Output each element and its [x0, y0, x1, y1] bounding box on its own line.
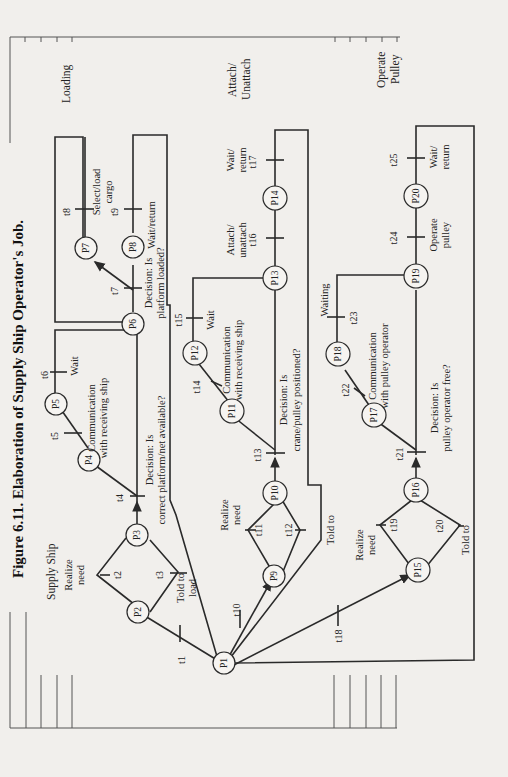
- label-t10: t10: [231, 604, 242, 617]
- section-bracket-lines: [10, 37, 400, 728]
- place-p20: P20: [404, 184, 428, 208]
- svg-text:P4: P4: [84, 455, 94, 465]
- descriptive-labels: Realize need Told to load Decision: Is c…: [63, 144, 471, 603]
- place-p2: P2: [127, 601, 149, 623]
- label-comm-receiving-2a: Communication: [221, 325, 232, 393]
- svg-text:P12: P12: [190, 345, 200, 360]
- label-wait-return-1: Wait/return: [146, 200, 157, 248]
- label-t25: t25: [388, 154, 399, 167]
- place-p18: P18: [326, 342, 350, 366]
- label-realize-need-3b: need: [366, 534, 377, 555]
- label-t6: t6: [39, 371, 50, 379]
- label-wait-return-3a: Wait/: [428, 146, 439, 169]
- label-decision-pulley-b: pulley operator free?: [441, 364, 452, 452]
- label-t18: t18: [333, 630, 344, 643]
- label-comm-receiving-1a: Communication: [86, 383, 97, 451]
- label-told-to-load-a: Told to: [175, 573, 186, 603]
- place-p10: P10: [263, 481, 287, 505]
- label-comm-receiving-1b: with receiving ship: [98, 378, 109, 458]
- label-t14: t14: [191, 381, 202, 394]
- petri-net-diagram: Figure 6.11. Elaboration of Supply Ship …: [0, 0, 508, 777]
- label-comm-receiving-2b: with receiving ship: [233, 320, 244, 400]
- section-label-supply-ship: Supply Ship: [45, 543, 58, 600]
- svg-text:P17: P17: [369, 407, 379, 422]
- label-t16: t16: [247, 234, 258, 247]
- label-t3: t3: [154, 571, 165, 579]
- label-attach-a: Attach/: [225, 224, 236, 255]
- label-wait-return-3b: return: [440, 144, 451, 170]
- label-t13: t13: [252, 449, 263, 462]
- label-wait-1: Wait: [69, 356, 80, 376]
- label-t8: t8: [61, 208, 72, 216]
- svg-text:P11: P11: [227, 404, 237, 419]
- label-decision-crane-b: crane/pulley positioned?: [291, 348, 302, 451]
- label-waiting: Waiting: [319, 283, 330, 317]
- svg-text:P9: P9: [269, 571, 279, 581]
- label-wait-return-2a: Wait/: [225, 149, 236, 172]
- svg-text:P2: P2: [133, 607, 143, 617]
- label-realize-need-1b: need: [75, 564, 86, 585]
- section-label-loading: Loading: [60, 64, 73, 103]
- label-realize-need-2b: need: [231, 504, 242, 525]
- label-select-load-a: Select/load: [91, 168, 102, 215]
- label-t12: t12: [283, 524, 294, 537]
- section-label-operate-1: Operate: [375, 52, 388, 88]
- label-decision-pulley-a: Decision: Is: [429, 383, 440, 433]
- label-told-to-3: Told to: [460, 525, 471, 555]
- place-p7: P7: [75, 237, 97, 259]
- svg-text:P13: P13: [270, 270, 280, 285]
- label-wait-return-2b: return: [237, 147, 248, 173]
- svg-text:P7: P7: [81, 243, 91, 253]
- label-realize-need-2a: Realize: [219, 499, 230, 531]
- label-t17: t17: [247, 156, 258, 169]
- label-decision-loaded-b: platform loaded?: [155, 247, 166, 319]
- label-realize-need-3a: Realize: [354, 529, 365, 561]
- svg-text:P3: P3: [132, 530, 142, 540]
- label-t5: t5: [49, 432, 60, 440]
- place-p16: P16: [404, 478, 428, 502]
- place-p13: P13: [263, 266, 287, 290]
- label-t4: t4: [114, 494, 125, 502]
- place-p9: P9: [263, 565, 285, 587]
- label-operate-pulley-a: Operate: [428, 218, 439, 252]
- svg-text:P18: P18: [333, 346, 343, 361]
- label-decision-crane-a: Decision: Is: [278, 375, 289, 425]
- label-operate-pulley-b: pulley: [440, 221, 451, 248]
- label-t20: t20: [434, 520, 445, 533]
- label-t2: t2: [112, 571, 123, 579]
- place-p12: P12: [183, 341, 207, 365]
- label-attach-b: unattach: [237, 221, 248, 257]
- svg-text:P1: P1: [219, 658, 229, 668]
- label-t1: t1: [176, 656, 187, 664]
- section-label-attach-1: Attach/: [226, 62, 238, 97]
- svg-text:P20: P20: [411, 188, 421, 203]
- place-p6: P6: [122, 313, 144, 335]
- label-t22: t22: [340, 384, 351, 397]
- label-wait-2: Wait: [205, 310, 216, 330]
- label-realize-need-1a: Realize: [63, 559, 74, 591]
- place-p14: P14: [263, 186, 287, 210]
- svg-text:P19: P19: [411, 268, 421, 283]
- svg-text:P10: P10: [270, 485, 280, 500]
- svg-text:P8: P8: [128, 242, 138, 252]
- svg-text:P15: P15: [413, 562, 423, 577]
- label-t23: t23: [348, 312, 359, 325]
- label-t9: t9: [109, 208, 120, 216]
- svg-text:P6: P6: [128, 319, 138, 329]
- label-told-to-load-b: load: [187, 578, 198, 597]
- label-t21: t21: [394, 448, 405, 461]
- place-p15: P15: [406, 558, 430, 582]
- place-p1: P1: [213, 652, 235, 674]
- svg-text:P16: P16: [411, 482, 421, 497]
- label-t19: t19: [388, 519, 399, 532]
- place-p8: P8: [122, 236, 144, 258]
- svg-text:P5: P5: [51, 399, 61, 409]
- label-told-to-2: Told to: [325, 515, 336, 545]
- label-comm-pulley-b: with pulley operator: [379, 323, 390, 409]
- label-decision-platform-b: correct platform/net available?: [156, 395, 167, 524]
- label-decision-loaded-a: Decision: Is: [143, 258, 154, 308]
- figure-title: Figure 6.11. Elaboration of Supply Ship …: [10, 220, 26, 578]
- place-p3: P3: [126, 524, 148, 546]
- label-t15: t15: [173, 314, 184, 327]
- transition-bars: [50, 158, 464, 642]
